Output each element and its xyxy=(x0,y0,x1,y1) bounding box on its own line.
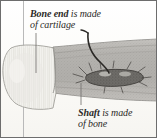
label-shaft-line1: Shaft is made xyxy=(78,107,132,118)
label-bone-end: Bone end is made of cartilage xyxy=(30,8,101,30)
label-bone-end-line1: Bone end is made xyxy=(30,8,101,19)
marrow-cavity xyxy=(86,69,144,86)
label-bone-end-rest: is made xyxy=(68,8,101,19)
label-shaft-strong: Shaft xyxy=(78,107,100,118)
blood-vessel-branch xyxy=(81,30,88,33)
bone-end-cartilage-group xyxy=(3,42,56,113)
label-shaft-line2: of bone xyxy=(78,118,132,129)
label-shaft-rest: is made xyxy=(100,107,133,118)
label-bone-end-strong: Bone end xyxy=(30,8,68,19)
label-shaft: Shaft is made of bone xyxy=(78,107,132,129)
label-bone-end-line2: of cartilage xyxy=(30,19,101,30)
bone-anatomy-figure: Bone end is made of cartilage Shaft is m… xyxy=(0,0,157,138)
